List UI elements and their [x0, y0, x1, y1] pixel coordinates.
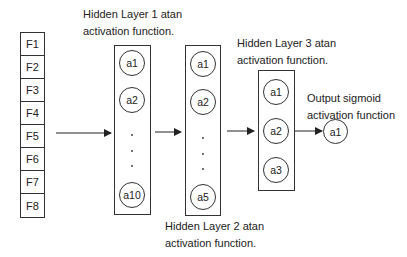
- connection-arrows: [0, 0, 407, 257]
